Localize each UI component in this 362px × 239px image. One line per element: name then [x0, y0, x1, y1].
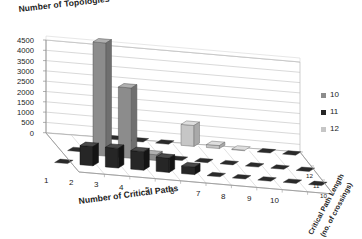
legend-item-label: 10 [330, 91, 339, 99]
y-tick-label: 3000 [8, 67, 34, 76]
legend-swatch-icon [321, 93, 326, 98]
z-tick-label: 11 [313, 182, 319, 189]
chart-legend: 10 11 12 [321, 89, 339, 140]
legend-item[interactable]: 12 [321, 123, 339, 135]
y-tick-label: 2500 [8, 77, 34, 86]
x-tick-label: 2 [69, 178, 73, 187]
bar-11-x3 [105, 144, 124, 168]
bar-11-x5 [156, 154, 175, 173]
chart-plot-svg [0, 0, 362, 239]
y-tick-label: 4500 [8, 36, 34, 45]
bar-10-x2 [93, 39, 112, 157]
x-tick-label: 7 [196, 189, 200, 198]
y-tick-label: 3500 [8, 57, 34, 66]
bar-12-x4 [181, 121, 200, 146]
bar-11-x4 [131, 147, 150, 170]
z-tick-label: 12 [306, 172, 313, 179]
bar-11-x2 [80, 142, 99, 166]
chart-container: Number of Topologies 4500 4000 3500 3000… [0, 0, 362, 239]
y-tick-label: 1500 [8, 98, 34, 107]
legend-item[interactable]: 11 [321, 106, 339, 118]
y-tick-label: 2000 [8, 88, 34, 97]
x-tick-label: 10 [270, 196, 279, 205]
legend-swatch-icon [321, 127, 326, 132]
y-tick-label: 1000 [8, 108, 34, 117]
bar-11-x6 [182, 163, 201, 175]
y-tick-label: 0 [8, 129, 34, 138]
legend-item-label: 12 [330, 125, 339, 133]
x-tick-label: 9 [247, 194, 251, 203]
legend-item[interactable]: 10 [321, 89, 339, 101]
legend-item-label: 11 [330, 108, 338, 116]
x-tick-label: 3 [94, 180, 98, 189]
legend-swatch-icon [321, 110, 326, 115]
x-tick-label: 8 [221, 192, 225, 201]
y-tick-marks [43, 40, 46, 133]
y-tick-label: 4000 [8, 46, 34, 55]
y-tick-label: 500 [8, 118, 34, 127]
x-tick-label: 1 [44, 176, 48, 185]
